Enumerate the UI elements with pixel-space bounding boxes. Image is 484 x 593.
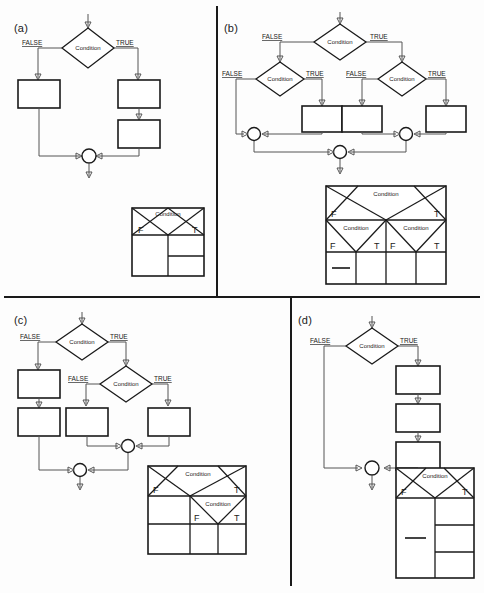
- table-col-t-a: T: [192, 225, 198, 235]
- panel-a-table: Condition F T: [0, 0, 216, 296]
- table-header-b: Condition: [373, 191, 398, 197]
- table-subheader-b-left: Condition: [343, 225, 368, 231]
- panel-d-table: Condition F T: [292, 298, 484, 593]
- table-sub-t-b-right: T: [434, 241, 440, 251]
- panel-b: (b) Condition FALSE TRUE Condition FALSE…: [218, 0, 484, 296]
- panel-c-table: Condition F T Condition F T: [0, 298, 290, 593]
- table-header-c: Condition: [185, 471, 210, 477]
- table-sub-t-b-left: T: [374, 241, 380, 251]
- table-col-f-b: F: [331, 209, 337, 219]
- table-sub-f-b-right: F: [390, 241, 396, 251]
- table-sub-f-c: F: [194, 513, 200, 523]
- table-sub-f-b-left: F: [330, 241, 336, 251]
- panel-b-table: Condition F T Condition F T Condition F …: [218, 0, 484, 296]
- table-col-f-a: F: [138, 225, 144, 235]
- figure-sheet: (a) Condition FALSE TRUE: [0, 0, 484, 593]
- table-subheader-b-right: Condition: [403, 225, 428, 231]
- panel-a: (a) Condition FALSE TRUE: [0, 0, 216, 296]
- table-col-t-c: T: [234, 485, 240, 495]
- panel-c: (c) Condition FALSE TRUE Condition FALSE…: [0, 298, 290, 593]
- table-col-f-c: F: [153, 485, 159, 495]
- panel-d: (d) Condition FALSE TRUE: [292, 298, 484, 593]
- table-col-t-d: T: [462, 487, 468, 497]
- table-header-a: Condition: [155, 211, 180, 217]
- table-col-t-b: T: [434, 209, 440, 219]
- table-subheader-c: Condition: [205, 501, 230, 507]
- table-header-d: Condition: [422, 473, 447, 479]
- table-sub-t-c: T: [234, 513, 240, 523]
- table-col-f-d: F: [401, 487, 407, 497]
